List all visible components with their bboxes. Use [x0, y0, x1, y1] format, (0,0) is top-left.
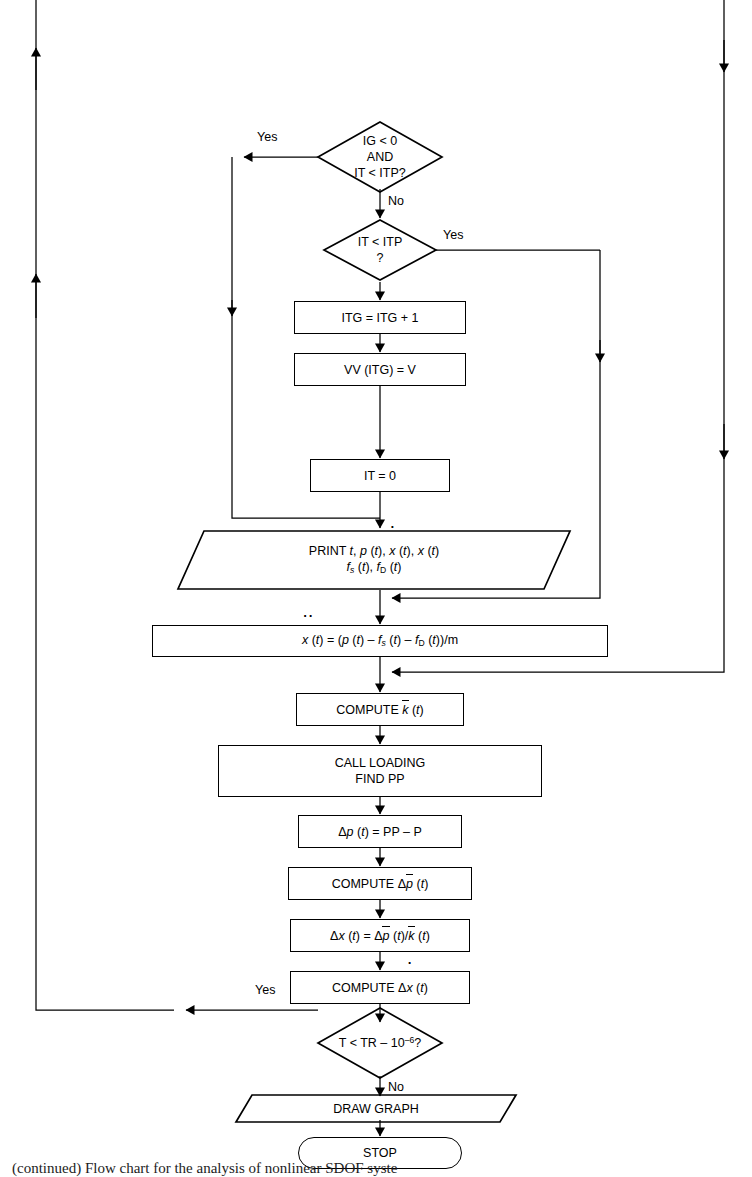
process-delta-xdot-label: COMPUTE Δx (t) [332, 980, 428, 996]
io-print-line2: fs (t), fD (t) [346, 559, 401, 576]
decision-tr-label: T < TR – 10–6? [339, 1035, 421, 1051]
process-itg-label: ITG = ITG + 1 [341, 310, 418, 326]
process-delta-x-label: Δx (t) = Δp (t)/k (t) [330, 928, 430, 944]
process-reset-it[interactable]: IT = 0 [310, 459, 450, 492]
process-delta-pbar-prefix: COMPUTE [332, 877, 398, 891]
process-vv-label: VV (ITG) = V [344, 362, 416, 378]
decision-ig-line1: IG < 0 [363, 133, 397, 149]
process-delta-xdot-prefix: COMPUTE [332, 981, 398, 995]
terminator-stop-label: STOP [363, 1145, 397, 1161]
process-call-loading[interactable]: CALL LOADING FIND PP [218, 745, 542, 797]
decision-time-remaining[interactable]: T < TR – 10–6? [318, 1008, 442, 1078]
process-store-vv[interactable]: VV (ITG) = V [294, 353, 466, 386]
edge-label-tr-no: No [388, 1080, 404, 1094]
decision-tr-exponent: –6 [405, 1035, 415, 1045]
process-kbar-label: COMPUTE k (t) [336, 702, 424, 718]
process-delta-p[interactable]: Δp (t) = PP – P [298, 815, 462, 848]
process-delta-x[interactable]: Δx (t) = Δp (t)/k (t) [290, 919, 470, 952]
figure-caption: (continued) Flow chart for the analysis … [12, 1160, 397, 1177]
decision-tr-suffix: ? [414, 1036, 421, 1050]
decision-ig-line2: AND [367, 149, 393, 165]
edge-label-ig-yes: Yes [257, 130, 277, 144]
process-increment-itg[interactable]: ITG = ITG + 1 [294, 301, 466, 334]
process-delta-pbar-label: COMPUTE Δp (t) [332, 876, 429, 892]
decision-ig-lt-0[interactable]: IG < 0 AND IT < ITP? [318, 122, 442, 192]
process-it0-label: IT = 0 [364, 468, 396, 484]
decision-ig-line3: IT < ITP? [354, 165, 406, 181]
io-draw-graph-label: DRAW GRAPH [333, 1101, 419, 1117]
process-compute-acceleration[interactable]: x (t) = (p (t) – fs (t) – fD (t))/m [152, 625, 608, 657]
decision-it-line2: ? [377, 250, 384, 266]
decision-it-line1: IT < ITP [358, 234, 403, 250]
process-accel-label: x (t) = (p (t) – fs (t) – fD (t))/m [302, 632, 458, 649]
io-draw-graph[interactable]: DRAW GRAPH [240, 1095, 512, 1122]
edge-label-it-yes: Yes [443, 228, 463, 242]
process-kbar-prefix: COMPUTE [336, 703, 402, 717]
process-call-line1: CALL LOADING [335, 755, 426, 771]
process-compute-kbar[interactable]: COMPUTE k (t) [296, 693, 464, 726]
process-compute-delta-xdot[interactable]: COMPUTE Δx (t) [290, 971, 470, 1004]
io-print-results[interactable]: PRINT t, p (t), x (t), x (t) fs (t), fD … [200, 533, 548, 587]
edge-label-tr-yes: Yes [255, 983, 275, 997]
process-call-line2: FIND PP [355, 771, 404, 787]
edge-label-ig-no: No [388, 194, 404, 208]
io-print-line1: PRINT t, p (t), x (t), x (t) [309, 543, 439, 559]
decision-tr-prefix: T < TR – 10 [339, 1036, 405, 1050]
decision-it-lt-itp[interactable]: IT < ITP ? [324, 222, 436, 278]
process-delta-p-label: Δp (t) = PP – P [338, 824, 422, 840]
process-compute-delta-pbar[interactable]: COMPUTE Δp (t) [288, 867, 472, 900]
